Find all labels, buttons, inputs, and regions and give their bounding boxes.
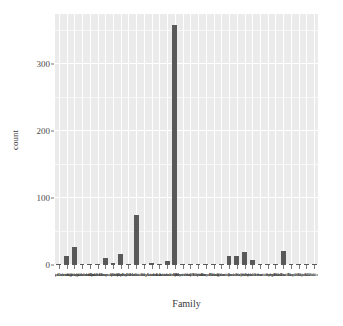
y-tick-mark: [51, 265, 54, 266]
gridline-major-x: [121, 14, 122, 265]
gridline-major-x: [105, 14, 106, 265]
gridline-major-x: [113, 14, 114, 265]
gridline-major-x: [275, 14, 276, 265]
x-tick-mark: [206, 265, 207, 269]
gridline-major-x: [67, 14, 68, 265]
gridline-major-y: [55, 197, 318, 198]
x-tick-mark: [82, 265, 83, 269]
gridline-major-x: [268, 14, 269, 265]
x-tick-mark: [144, 265, 145, 269]
x-tick-mark: [159, 265, 160, 269]
y-axis-tick-labels: 0100200300: [22, 0, 50, 326]
x-tick-mark: [198, 265, 199, 269]
plot-panel: [55, 14, 318, 265]
x-axis-title: Family: [55, 298, 318, 309]
bar: [118, 254, 123, 265]
y-tick-label: 200: [24, 126, 50, 136]
x-tick-mark: [299, 265, 300, 269]
x-tick-mark: [183, 265, 184, 269]
gridline-major-x: [98, 14, 99, 265]
y-tick-mark: [51, 131, 54, 132]
gridline-major-x: [306, 14, 307, 265]
gridline-major-x: [74, 14, 75, 265]
x-tick-mark: [268, 265, 269, 269]
x-tick-mark: [113, 265, 114, 269]
x-tick-mark: [59, 265, 60, 269]
gridline-major-x: [190, 14, 191, 265]
x-tick-label: Ulidiidae: [305, 272, 318, 278]
x-tick-mark: [260, 265, 261, 269]
gridline-major-x: [152, 14, 153, 265]
gridline-major-x: [59, 14, 60, 265]
x-tick-mark: [128, 265, 129, 269]
bar: [281, 251, 286, 265]
gridline-major-x: [144, 14, 145, 265]
bar: [227, 256, 232, 265]
gridline-minor-y: [55, 231, 318, 232]
x-tick-mark: [105, 265, 106, 269]
gridline-major-y: [55, 63, 318, 64]
x-tick-mark: [245, 265, 246, 269]
gridline-minor-y: [55, 30, 318, 31]
x-tick-mark: [67, 265, 68, 269]
bar: [242, 252, 247, 265]
gridline-major-x: [183, 14, 184, 265]
gridline-minor-y: [55, 164, 318, 165]
x-tick-mark: [74, 265, 75, 269]
y-tick-mark: [51, 198, 54, 199]
gridline-major-x: [283, 14, 284, 265]
gridline-major-x: [159, 14, 160, 265]
x-tick-mark: [314, 265, 315, 269]
bar: [64, 256, 69, 265]
x-tick-mark: [252, 265, 253, 269]
y-axis-title: count: [8, 0, 22, 280]
x-tick-mark: [275, 265, 276, 269]
gridline-major-x: [214, 14, 215, 265]
y-tick-label: 100: [24, 193, 50, 203]
gridline-major-x: [299, 14, 300, 265]
x-tick-mark: [214, 265, 215, 269]
x-tick-mark: [221, 265, 222, 269]
x-tick-mark: [237, 265, 238, 269]
x-axis-tick-marks: [55, 265, 318, 269]
y-tick-label: 0: [24, 260, 50, 270]
x-tick-mark: [121, 265, 122, 269]
gridline-major-x: [291, 14, 292, 265]
bar: [72, 247, 77, 265]
gridline-major-x: [237, 14, 238, 265]
gridline-minor-y: [55, 97, 318, 98]
x-axis-tick-labels: CalliphoridaeCecidomyiidaeCeratopogonida…: [55, 270, 318, 292]
gridline-major-x: [252, 14, 253, 265]
x-tick-mark: [190, 265, 191, 269]
x-tick-mark: [90, 265, 91, 269]
x-tick-mark: [136, 265, 137, 269]
gridline-major-x: [229, 14, 230, 265]
x-tick-mark: [152, 265, 153, 269]
gridline-major-x: [198, 14, 199, 265]
bar: [172, 25, 177, 265]
gridline-major-x: [260, 14, 261, 265]
gridline-major-x: [82, 14, 83, 265]
x-tick-mark: [291, 265, 292, 269]
y-tick-label: 300: [24, 59, 50, 69]
gridline-major-x: [314, 14, 315, 265]
x-tick-mark: [98, 265, 99, 269]
gridline-major-x: [221, 14, 222, 265]
gridline-major-x: [206, 14, 207, 265]
bar-chart: count 0100200300 CalliphoridaeCecidomyii…: [0, 0, 343, 326]
gridline-major-x: [167, 14, 168, 265]
bar: [234, 256, 239, 265]
gridline-major-x: [90, 14, 91, 265]
x-tick-mark: [167, 265, 168, 269]
gridline-major-y: [55, 130, 318, 131]
y-tick-mark: [51, 64, 54, 65]
gridline-major-x: [245, 14, 246, 265]
gridline-major-x: [128, 14, 129, 265]
y-axis-title-text: count: [10, 130, 20, 150]
bar: [103, 258, 108, 265]
x-tick-mark: [283, 265, 284, 269]
bar: [134, 215, 139, 265]
x-tick-mark: [175, 265, 176, 269]
x-tick-mark: [229, 265, 230, 269]
x-tick-mark: [306, 265, 307, 269]
